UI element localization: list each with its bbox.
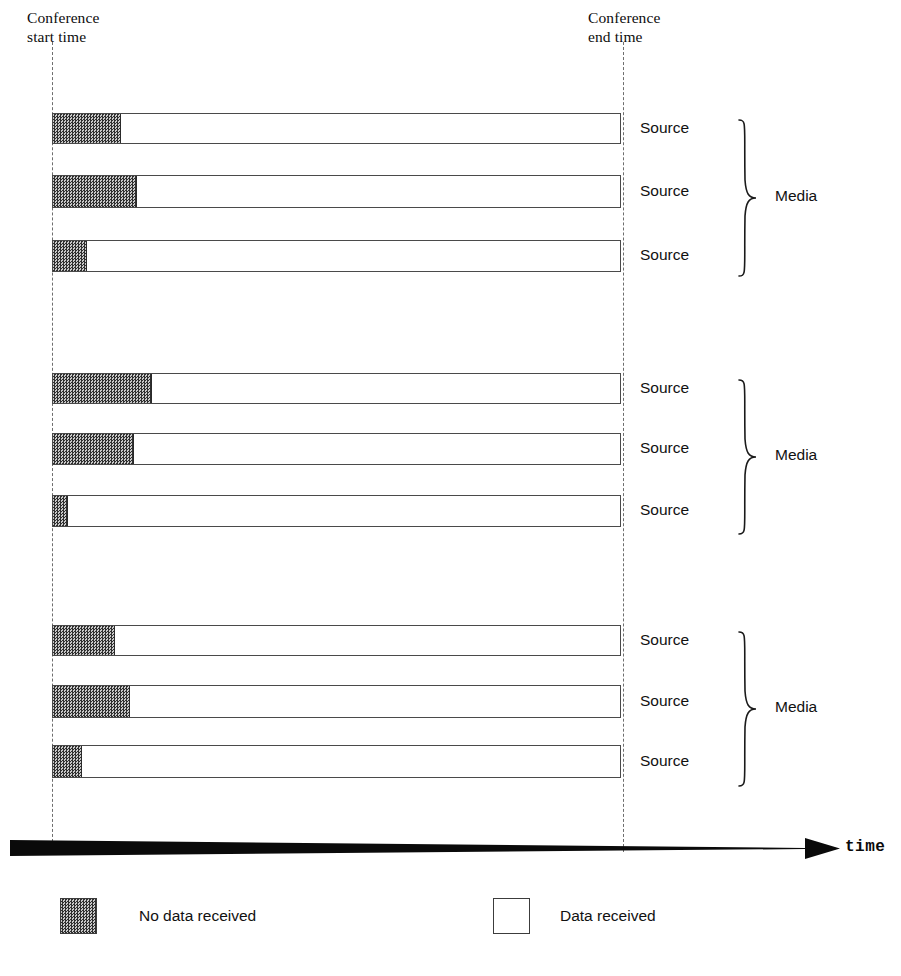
no-data-segment xyxy=(53,686,130,717)
media-group-label: Media xyxy=(775,698,817,716)
source-label: Source xyxy=(640,501,689,519)
source-label: Source xyxy=(640,439,689,457)
source-label: Source xyxy=(640,631,689,649)
legend-swatch-no-data xyxy=(60,898,97,934)
no-data-segment xyxy=(53,626,115,655)
source-label: Source xyxy=(640,246,689,264)
conference-end-time-label: Conference end time xyxy=(588,8,660,46)
source-bar xyxy=(52,745,621,778)
source-label: Source xyxy=(640,182,689,200)
source-label: Source xyxy=(640,752,689,770)
time-axis-label: time xyxy=(845,838,885,856)
no-data-segment xyxy=(53,241,87,271)
no-data-segment xyxy=(53,496,68,526)
no-data-segment xyxy=(53,434,134,464)
source-label: Source xyxy=(640,379,689,397)
source-bar xyxy=(52,685,621,718)
media-group-brace xyxy=(735,378,761,536)
source-bar xyxy=(52,240,621,272)
legend-label-data: Data received xyxy=(560,907,656,925)
media-group-label: Media xyxy=(775,446,817,464)
diagram-canvas: Conference start time Conference end tim… xyxy=(0,0,901,976)
source-label: Source xyxy=(640,119,689,137)
source-label: Source xyxy=(640,692,689,710)
time-axis-arrow xyxy=(10,824,840,868)
source-bar xyxy=(52,625,621,656)
source-bar xyxy=(52,175,621,208)
source-bar xyxy=(52,433,621,465)
media-group-brace xyxy=(735,630,761,788)
media-group-brace xyxy=(735,118,761,278)
legend-label-no-data: No data received xyxy=(139,907,256,925)
media-group-label: Media xyxy=(775,187,817,205)
no-data-segment xyxy=(53,114,121,143)
source-bar xyxy=(52,495,621,527)
source-bar xyxy=(52,373,621,404)
no-data-segment xyxy=(53,176,137,207)
conference-end-guide-line xyxy=(623,42,624,852)
no-data-segment xyxy=(53,746,82,777)
source-bar xyxy=(52,113,621,144)
no-data-segment xyxy=(53,374,152,403)
conference-start-time-label: Conference start time xyxy=(27,8,99,46)
legend-swatch-data xyxy=(493,898,530,934)
